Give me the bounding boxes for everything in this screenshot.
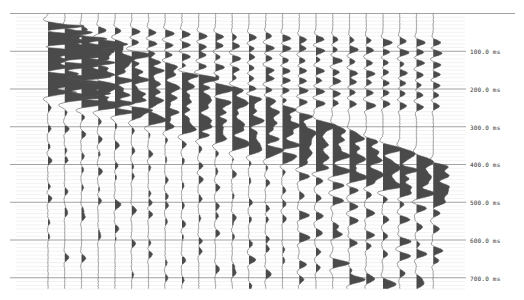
trace-fill <box>433 39 449 264</box>
trace-fill <box>249 34 264 289</box>
trace-fill <box>165 30 180 282</box>
trace-fill <box>400 37 420 278</box>
seismic-wiggle-plot <box>0 0 524 300</box>
time-label-600: 600.0 ms <box>470 237 501 244</box>
time-label-400: 400.0 ms <box>470 161 501 168</box>
time-label-700: 700.0 ms <box>470 275 501 282</box>
trace-fill <box>149 29 167 258</box>
trace-fill <box>266 33 284 279</box>
time-label-300: 300.0 ms <box>470 124 501 131</box>
time-label-100: 100.0 ms <box>470 48 501 55</box>
trace-fill <box>182 31 198 284</box>
time-label-200: 200.0 ms <box>470 86 501 93</box>
time-label-500: 500.0 ms <box>470 199 501 206</box>
